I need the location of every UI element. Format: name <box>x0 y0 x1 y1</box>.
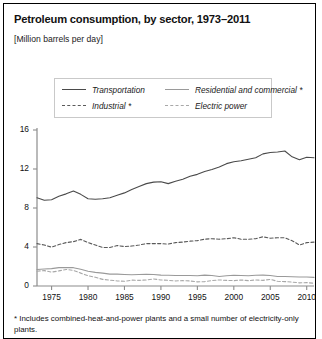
x-axis-tick-label: 1995 <box>182 292 212 302</box>
series-line-transportation <box>37 151 314 200</box>
legend-line-dashed-icon <box>62 102 86 110</box>
series-line-electric-power <box>37 269 314 283</box>
legend-line-solid-icon <box>62 86 86 94</box>
x-axis-tick-label: 1990 <box>146 292 176 302</box>
chart-footnote: * Includes combined-heat-and-power plant… <box>14 314 314 335</box>
legend-item-industrial: Industrial * <box>62 99 131 113</box>
x-axis-tick-label: 2010 <box>292 292 316 302</box>
y-axis-tick-label: 12 <box>11 163 29 173</box>
x-axis-tick-label: 2005 <box>255 292 285 302</box>
y-axis-tick-label: 0 <box>11 280 29 290</box>
legend-line-dashed-icon <box>165 102 189 110</box>
series-line-residential-and-commercial <box>37 267 314 277</box>
legend-label: Electric power <box>195 101 247 111</box>
legend-label: Transportation <box>92 85 145 95</box>
x-axis-tick-label: 1980 <box>73 292 103 302</box>
legend-label: Industrial * <box>92 101 131 111</box>
legend-item-electric-power: Electric power <box>165 99 247 113</box>
line-chart-svg <box>4 122 316 304</box>
chart-legend: Transportation Residential and commercia… <box>54 78 272 118</box>
x-axis-tick-label: 1975 <box>37 292 67 302</box>
legend-item-residential-and-commercial: Residential and commercial * <box>165 83 302 97</box>
y-axis-tick-label: 8 <box>11 202 29 212</box>
legend-item-transportation: Transportation <box>62 83 145 97</box>
x-axis-tick-label: 2000 <box>219 292 249 302</box>
series-line-industrial <box>37 237 314 248</box>
x-axis-tick-label: 1985 <box>109 292 139 302</box>
legend-label: Residential and commercial * <box>195 85 302 95</box>
page-title: Petroleum consumption, by sector, 1973–2… <box>14 13 250 25</box>
figure-panel: Petroleum consumption, by sector, 1973–2… <box>3 3 316 339</box>
legend-line-solid-icon <box>165 86 189 94</box>
chart-units-subtitle: [Million barrels per day] <box>14 34 103 44</box>
chart-plot-area: 048121619751980198519901995200020052010 <box>4 122 316 304</box>
y-axis-tick-label: 16 <box>11 124 29 134</box>
y-axis-tick-label: 4 <box>11 241 29 251</box>
